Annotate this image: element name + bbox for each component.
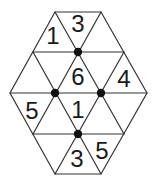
vertex-dot[interactable] xyxy=(74,130,82,138)
grid-line-d1 xyxy=(55,12,124,134)
clue-number[interactable]: 1 xyxy=(71,96,84,123)
grid-line-a1 xyxy=(33,12,101,134)
vertex-dot[interactable] xyxy=(97,89,105,97)
clue-number[interactable]: 5 xyxy=(95,137,108,164)
clue-number[interactable]: 1 xyxy=(46,22,59,49)
clue-number[interactable]: 3 xyxy=(70,145,83,172)
hexagon-puzzle-board: 1 3 6 4 5 1 3 5 xyxy=(0,0,157,185)
clue-number[interactable]: 6 xyxy=(71,63,84,90)
clue-number[interactable]: 5 xyxy=(25,97,38,124)
clue-number[interactable]: 4 xyxy=(117,65,130,92)
grid-line-a2 xyxy=(55,52,124,174)
vertex-dot[interactable] xyxy=(51,89,59,97)
clues: 1 3 6 4 5 1 3 5 xyxy=(25,10,130,172)
grid-line-d2 xyxy=(33,52,101,174)
clue-number[interactable]: 3 xyxy=(71,10,84,37)
vertex-dot[interactable] xyxy=(74,48,82,56)
